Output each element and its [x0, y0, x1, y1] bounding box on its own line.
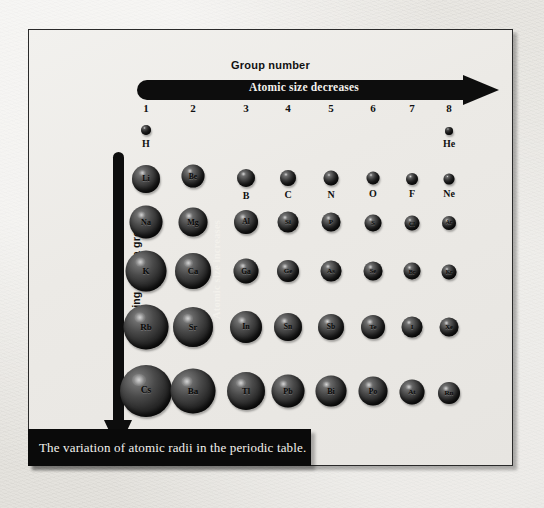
- atom-br[interactable]: Br: [404, 263, 421, 280]
- figure-frame: Group number Atomic size decreases 12345…: [28, 29, 513, 466]
- atom-kr[interactable]: Kr: [442, 265, 457, 280]
- atom-po[interactable]: Po: [359, 377, 388, 406]
- atom-se[interactable]: Se: [364, 262, 383, 281]
- sphere-pb: Pb: [272, 375, 305, 408]
- atom-symbol-ca: Ca: [188, 267, 198, 276]
- sphere-sb: Sb: [318, 314, 344, 340]
- atom-h[interactable]: H: [141, 125, 151, 135]
- sphere-te: Te: [361, 315, 385, 339]
- atom-c[interactable]: C: [280, 170, 296, 186]
- atom-symbol-h: H: [142, 138, 150, 149]
- sphere-as: As: [321, 261, 342, 282]
- atom-f[interactable]: F: [406, 173, 418, 185]
- atom-rn[interactable]: Rn: [438, 382, 460, 404]
- sphere-at: At: [400, 380, 425, 405]
- sphere-rb: Rb: [124, 305, 169, 350]
- atom-in[interactable]: In: [230, 311, 262, 343]
- atom-cl[interactable]: Cl: [405, 216, 420, 231]
- atom-symbol-br: Br: [409, 268, 416, 274]
- atom-sb[interactable]: Sb: [318, 314, 344, 340]
- sphere-tl: Tl: [227, 372, 265, 410]
- atom-symbol-ba: Ba: [188, 387, 199, 396]
- sphere-c: [280, 170, 296, 186]
- atom-symbol-o: O: [369, 188, 377, 199]
- sphere-ga: Ga: [234, 259, 259, 284]
- atom-symbol-c: C: [284, 189, 291, 200]
- atom-sr[interactable]: Sr: [173, 307, 213, 347]
- sphere-cs: Cs: [120, 365, 172, 417]
- atom-symbol-li: Li: [142, 175, 150, 183]
- atom-mg[interactable]: Mg: [179, 208, 208, 237]
- atom-symbol-mg: Mg: [187, 218, 199, 226]
- atom-be[interactable]: Be: [182, 165, 205, 188]
- atom-ga[interactable]: Ga: [234, 259, 259, 284]
- atom-al[interactable]: Al: [234, 210, 258, 234]
- atom-symbol-ga: Ga: [241, 267, 251, 275]
- sphere-n: [324, 171, 339, 186]
- sphere-ge: Ge: [277, 260, 299, 282]
- atom-ba[interactable]: Ba: [171, 369, 216, 414]
- atom-cs[interactable]: Cs: [120, 365, 172, 417]
- atom-symbol-sb: Sb: [327, 323, 335, 331]
- atom-symbol-na: Na: [141, 218, 151, 226]
- atom-symbol-pb: Pb: [283, 387, 292, 395]
- atom-symbol-at: At: [408, 389, 415, 396]
- atom-n[interactable]: N: [324, 171, 339, 186]
- sphere-s: S: [365, 215, 382, 232]
- atom-li[interactable]: Li: [132, 165, 160, 193]
- atom-symbol-in: In: [242, 323, 250, 331]
- atom-ge[interactable]: Ge: [277, 260, 299, 282]
- atom-symbol-f: F: [409, 188, 415, 199]
- sphere-i: I: [402, 317, 423, 338]
- sphere-f: [406, 173, 418, 185]
- atom-k[interactable]: K: [126, 251, 167, 292]
- atom-symbol-al: Al: [242, 218, 250, 226]
- sphere-h: [141, 125, 151, 135]
- sphere-al: Al: [234, 210, 258, 234]
- atom-symbol-xe: Xe: [445, 324, 453, 331]
- atom-symbol-s: S: [371, 220, 375, 227]
- atom-symbol-k: K: [142, 267, 149, 276]
- atom-at[interactable]: At: [400, 380, 425, 405]
- atom-symbol-be: Be: [189, 172, 197, 180]
- sphere-mg: Mg: [179, 208, 208, 237]
- atom-rb[interactable]: Rb: [124, 305, 169, 350]
- sphere-be: Be: [182, 165, 205, 188]
- atom-s[interactable]: S: [365, 215, 382, 232]
- atom-ar[interactable]: Ar: [442, 216, 456, 230]
- atom-xe[interactable]: Xe: [440, 318, 459, 337]
- sphere-he: [445, 127, 453, 135]
- sphere-sr: Sr: [173, 307, 213, 347]
- sphere-ba: Ba: [171, 369, 216, 414]
- sphere-ar: Ar: [442, 216, 456, 230]
- atom-he[interactable]: He: [445, 127, 453, 135]
- atom-ne[interactable]: Ne: [444, 174, 455, 185]
- atom-symbol-cl: Cl: [409, 220, 415, 226]
- atom-symbol-rn: Rn: [445, 390, 454, 397]
- atom-te[interactable]: Te: [361, 315, 385, 339]
- sphere-rn: Rn: [438, 382, 460, 404]
- atom-b[interactable]: B: [237, 169, 255, 187]
- sphere-na: Na: [130, 206, 163, 239]
- figure-caption-text: The variation of atomic radii in the per…: [28, 440, 306, 456]
- atom-symbol-ge: Ge: [284, 268, 293, 275]
- sphere-b: [237, 169, 255, 187]
- atom-ca[interactable]: Ca: [175, 253, 211, 289]
- atom-pb[interactable]: Pb: [272, 375, 305, 408]
- atom-o[interactable]: O: [367, 172, 380, 185]
- sphere-k: K: [126, 251, 167, 292]
- atom-si[interactable]: Si: [278, 212, 299, 233]
- atom-p[interactable]: P: [322, 213, 341, 232]
- atom-symbol-tl: Tl: [242, 387, 250, 396]
- atom-bi[interactable]: Bi: [316, 376, 347, 407]
- atom-tl[interactable]: Tl: [227, 372, 265, 410]
- sphere-se: Se: [364, 262, 383, 281]
- atom-symbol-as: As: [327, 268, 335, 275]
- atom-as[interactable]: As: [321, 261, 342, 282]
- atom-i[interactable]: I: [402, 317, 423, 338]
- atom-na[interactable]: Na: [130, 206, 163, 239]
- atom-symbol-sn: Sn: [284, 323, 292, 331]
- atom-symbol-ar: Ar: [446, 220, 452, 226]
- sphere-in: In: [230, 311, 262, 343]
- atom-sn[interactable]: Sn: [274, 313, 302, 341]
